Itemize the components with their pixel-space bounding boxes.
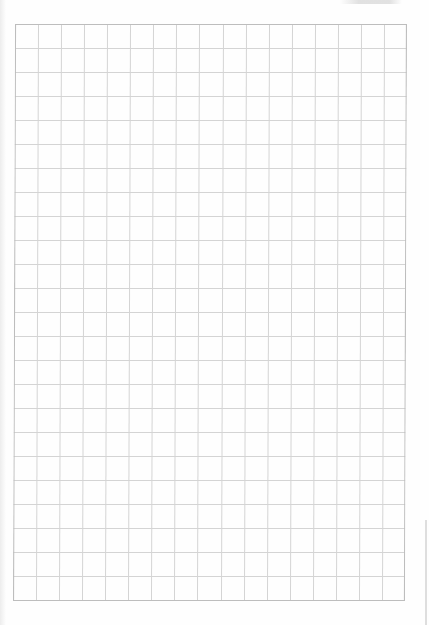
scan-edge-mark	[425, 520, 427, 625]
grid-svg	[13, 24, 407, 601]
faded-header-text	[340, 0, 402, 4]
graph-paper-page	[0, 0, 429, 625]
scan-edge-shadow	[0, 0, 6, 625]
grid	[13, 24, 407, 600]
